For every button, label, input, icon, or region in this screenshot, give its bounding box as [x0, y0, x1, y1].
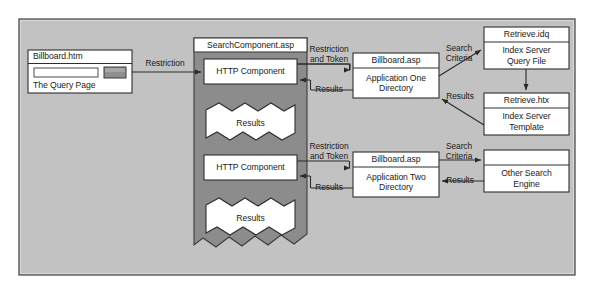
- edge-label-results-idq: Results: [437, 91, 483, 103]
- edge-label-search-criteria-one: Search Criteria: [436, 43, 482, 64]
- node-other-search-engine: [484, 150, 569, 192]
- edge-label-restriction: Restriction: [133, 58, 197, 70]
- edge-label-restriction-token-one: Restriction and Token: [302, 44, 356, 65]
- edge-label-search-criteria-two: Search Criteria: [436, 141, 482, 162]
- edge-label-results-other: Results: [437, 175, 483, 187]
- edge-label-results-two: Results: [302, 182, 356, 194]
- node-retrieve-htx: [484, 93, 569, 135]
- edge-label-restriction-token-two: Restriction and Token: [302, 141, 356, 162]
- node-billboard-asp-one: [353, 53, 439, 98]
- edge-label-results-one: Results: [302, 84, 356, 96]
- diagram-root: SearchComponent.asp Billboard.htm The Qu…: [0, 0, 592, 293]
- node-billboard-htm: [28, 50, 132, 93]
- node-http-component-two: [204, 155, 297, 180]
- diagram-canvas: [0, 0, 592, 293]
- node-billboard-asp-two: [353, 152, 439, 197]
- node-http-component-one: [204, 59, 297, 84]
- node-retrieve-idq: [484, 27, 569, 69]
